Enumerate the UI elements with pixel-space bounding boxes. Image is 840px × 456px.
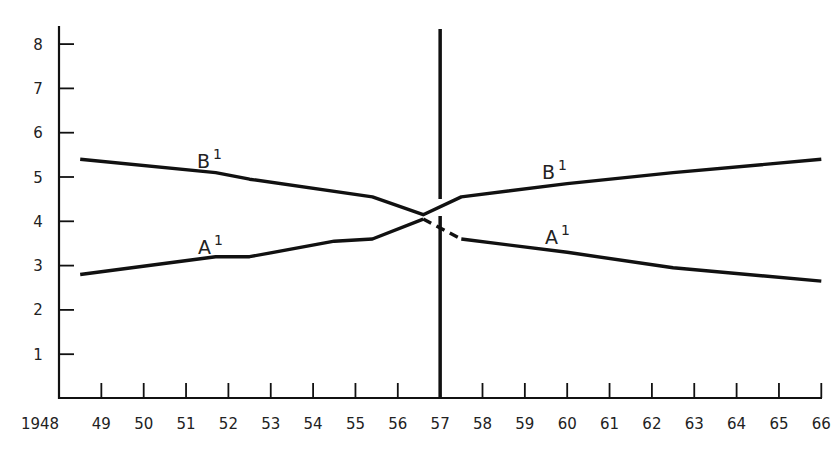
x-tick-label: 53 [261,415,280,433]
y-tick-label: 7 [33,80,43,98]
x-tick-label: 63 [685,415,704,433]
x-tick-label: 49 [92,415,111,433]
series-line-a1 [461,239,821,281]
x-tick-label: 64 [727,415,746,433]
series-label-b-left: B1 [197,146,222,172]
x-tick-label: 58 [473,415,492,433]
x-tick-label: 50 [134,415,153,433]
x-tick-label: 57 [431,415,450,433]
y-tick-label: 2 [33,301,43,319]
y-tick-label: 3 [33,257,43,275]
series-label-a-left: A1 [198,232,223,258]
y-tick-label: 6 [33,124,43,142]
y-ticks: 12345678 [33,36,74,364]
x-ticks: 1948495051525354555657585960616263646566 [21,383,831,433]
series-line-a1 [423,219,461,239]
x-tick-label: 52 [219,415,238,433]
x-tick-label: 54 [304,415,323,433]
y-tick-label: 8 [33,36,43,54]
x-tick-label: 59 [515,415,534,433]
x-tick-label: 61 [600,415,619,433]
x-tick-label: 55 [346,415,365,433]
x-tick-label: 62 [642,415,661,433]
x-tick-label: 51 [177,415,196,433]
x-tick-label: 66 [812,415,831,433]
y-tick-label: 5 [33,169,43,187]
x-tick-label: 56 [388,415,407,433]
series-line-a1 [80,219,423,274]
series-lines [80,159,821,281]
y-tick-label: 4 [33,213,43,231]
y-tick-label: 1 [33,346,43,364]
x-tick-label: 1948 [21,415,59,433]
series-label-a-right: A1 [545,222,570,248]
x-tick-label: 65 [769,415,788,433]
x-tick-label: 60 [558,415,577,433]
line-chart: 12345678 1948495051525354555657585960616… [0,0,840,456]
series-line-b1 [80,159,821,214]
series-label-b-right: B1 [542,157,567,183]
